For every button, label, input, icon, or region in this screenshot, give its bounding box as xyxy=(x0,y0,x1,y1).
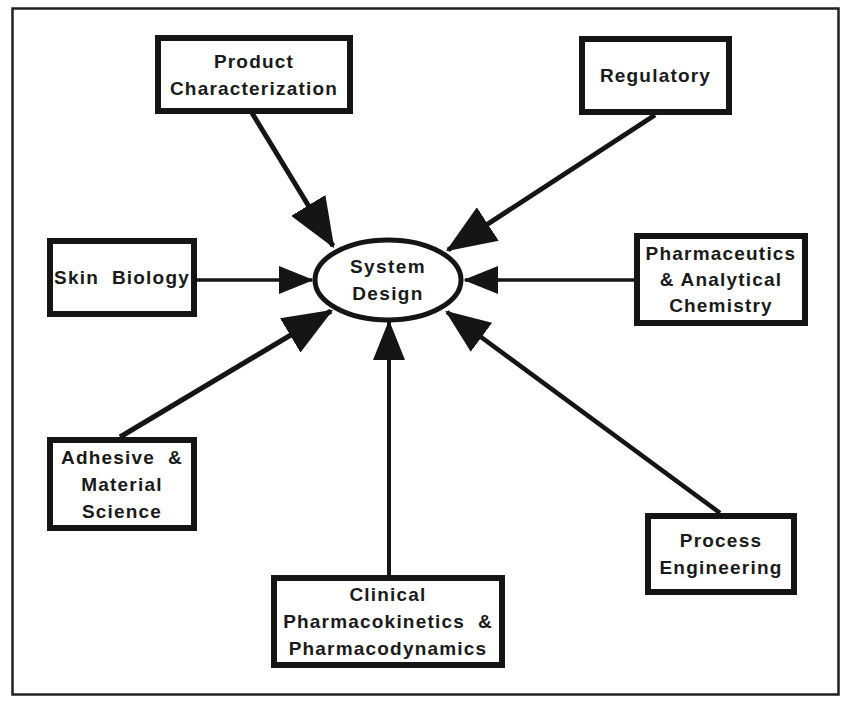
node-process-engineering: Process Engineering xyxy=(645,513,797,595)
node-label-line: Clinical xyxy=(349,581,426,608)
edge-adhesive-material-science xyxy=(120,311,331,437)
node-label-line: Pharmacodynamics xyxy=(289,635,488,662)
edge-product-characterization xyxy=(252,113,333,246)
node-label-line: Characterization xyxy=(170,75,338,102)
edge-regulatory xyxy=(448,115,655,250)
node-label-line: Science xyxy=(82,498,162,525)
edge-process-engineering xyxy=(447,312,720,513)
node-label-line: Adhesive & xyxy=(61,444,183,471)
node-label-line: Chemistry xyxy=(669,293,773,319)
node-label-line: Skin Biology xyxy=(54,264,190,291)
system-design-label: System Design xyxy=(318,242,458,318)
node-label-line: Material xyxy=(81,471,162,498)
node-adhesive-material-science: Adhesive & Material Science xyxy=(47,437,197,531)
node-pharmaceutics: Pharmaceutics & Analytical Chemistry xyxy=(634,233,808,326)
node-label-line: Pharmaceutics xyxy=(646,241,797,267)
node-skin-biology: Skin Biology xyxy=(47,238,197,317)
node-label-line: & Analytical xyxy=(660,267,782,293)
node-product-characterization: Product Characterization xyxy=(155,35,353,114)
node-label-line: Engineering xyxy=(660,554,783,581)
node-clinical-pharmacokinetics: Clinical Pharmacokinetics & Pharmacodyna… xyxy=(271,575,505,668)
node-label-line: Product xyxy=(214,48,294,75)
node-regulatory: Regulatory xyxy=(579,36,732,115)
system-design-line-2: Design xyxy=(352,280,424,307)
node-label-line: Process xyxy=(680,527,762,554)
system-design-line-1: System xyxy=(350,253,426,280)
node-label-line: Regulatory xyxy=(600,62,711,89)
node-label-line: Pharmacokinetics & xyxy=(283,608,493,635)
